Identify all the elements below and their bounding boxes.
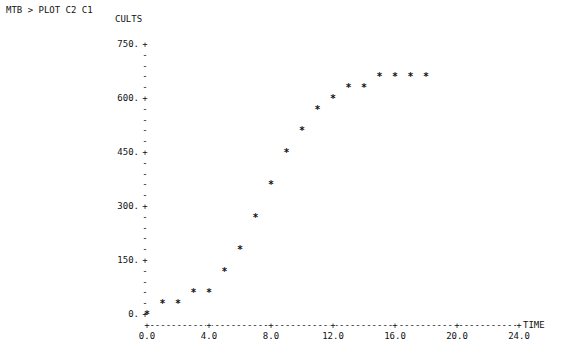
y-minor-tick: - bbox=[142, 82, 148, 92]
y-minor-tick: - bbox=[142, 277, 148, 287]
y-minor-tick: - bbox=[142, 169, 148, 179]
x-major-tick: + bbox=[144, 320, 150, 330]
y-minor-tick: - bbox=[142, 61, 148, 71]
x-tick-label: 24.0 bbox=[499, 331, 539, 341]
x-major-tick: + bbox=[268, 320, 274, 330]
y-minor-tick: - bbox=[142, 71, 148, 81]
y-minor-tick: - bbox=[142, 266, 148, 276]
y-tick-label: 300. bbox=[93, 201, 139, 211]
data-point: * bbox=[206, 288, 213, 298]
y-major-tick: + bbox=[142, 147, 148, 157]
x-tick-label: 20.0 bbox=[437, 331, 477, 341]
data-point: * bbox=[237, 245, 244, 255]
data-point: * bbox=[283, 148, 290, 158]
data-point: * bbox=[144, 310, 151, 320]
y-tick-label: 150. bbox=[93, 255, 139, 265]
data-point: * bbox=[175, 299, 182, 309]
y-minor-tick: - bbox=[142, 244, 148, 254]
x-major-tick: + bbox=[516, 320, 522, 330]
y-minor-tick: - bbox=[142, 179, 148, 189]
y-major-tick: + bbox=[142, 201, 148, 211]
y-axis-label: CULTS bbox=[115, 14, 142, 24]
data-point: * bbox=[345, 83, 352, 93]
data-point: * bbox=[221, 267, 228, 277]
data-point: * bbox=[361, 83, 368, 93]
y-minor-tick: - bbox=[142, 104, 148, 114]
data-point: * bbox=[407, 72, 414, 82]
x-major-tick: + bbox=[206, 320, 212, 330]
data-point: * bbox=[299, 126, 306, 136]
y-minor-tick: - bbox=[142, 190, 148, 200]
data-point: * bbox=[252, 213, 259, 223]
data-point: * bbox=[423, 72, 430, 82]
x-tick-label: 12.0 bbox=[313, 331, 353, 341]
data-point: * bbox=[190, 288, 197, 298]
y-minor-tick: - bbox=[142, 287, 148, 297]
data-point: * bbox=[392, 72, 399, 82]
y-tick-label: 600. bbox=[93, 93, 139, 103]
data-point: * bbox=[268, 180, 275, 190]
x-major-tick: + bbox=[454, 320, 460, 330]
x-tick-label: 16.0 bbox=[375, 331, 415, 341]
y-minor-tick: - bbox=[142, 223, 148, 233]
y-minor-tick: - bbox=[142, 233, 148, 243]
y-major-tick: + bbox=[142, 255, 148, 265]
y-major-tick: + bbox=[142, 93, 148, 103]
y-minor-tick: - bbox=[142, 115, 148, 125]
y-tick-label: 450. bbox=[93, 147, 139, 157]
x-tick-label: 4.0 bbox=[189, 331, 229, 341]
y-minor-tick: - bbox=[142, 298, 148, 308]
y-minor-tick: - bbox=[142, 125, 148, 135]
x-major-tick: + bbox=[330, 320, 336, 330]
data-point: * bbox=[376, 72, 383, 82]
y-minor-tick: - bbox=[142, 50, 148, 60]
command-prompt: MTB > PLOT C2 C1 bbox=[6, 5, 93, 15]
y-tick-label: 0. bbox=[93, 309, 139, 319]
x-major-tick: + bbox=[392, 320, 398, 330]
y-minor-tick: - bbox=[142, 136, 148, 146]
x-axis-label: TIME bbox=[523, 320, 545, 330]
x-tick-label: 8.0 bbox=[251, 331, 291, 341]
y-minor-tick: - bbox=[142, 212, 148, 222]
x-tick-label: 0.0 bbox=[127, 331, 167, 341]
y-major-tick: + bbox=[142, 39, 148, 49]
y-minor-tick: - bbox=[142, 158, 148, 168]
data-point: * bbox=[330, 94, 337, 104]
data-point: * bbox=[314, 105, 321, 115]
data-point: * bbox=[159, 299, 166, 309]
y-tick-label: 750. bbox=[93, 39, 139, 49]
